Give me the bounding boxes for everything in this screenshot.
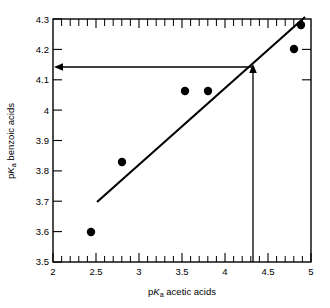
data-point [118, 158, 126, 166]
y-axis-title: pKa benzoic acids [5, 103, 18, 179]
y-tick-label: 3.9 [36, 135, 49, 146]
x-tick-label: 4.5 [261, 266, 274, 277]
plot-frame [53, 19, 311, 262]
y-tick-label: 3.8 [36, 165, 49, 176]
y-tick-label: 4.3 [36, 14, 49, 25]
x-axis-title: pKa acetic acids [148, 286, 216, 299]
regression-line [97, 17, 305, 202]
scatter-plot: 3.5 3.6 3.7 3.8 3.9 4 4.1 4.2 4.3 [0, 0, 330, 308]
x-tick-label: 4 [222, 266, 227, 277]
y-axis-tick-labels: 3.5 3.6 3.7 3.8 3.9 4 4.1 4.2 4.3 [36, 14, 49, 268]
x-tick-label: 2 [50, 266, 55, 277]
x-tick-label: 2.5 [89, 266, 102, 277]
chart-figure: 3.5 3.6 3.7 3.8 3.9 4 4.1 4.2 4.3 [0, 0, 330, 308]
x-tick-label: 3.5 [175, 266, 188, 277]
y-axis-ticks [53, 19, 62, 262]
y-tick-label: 4.2 [36, 44, 49, 55]
y-tick-label: 3.6 [36, 226, 49, 237]
data-points [87, 21, 305, 236]
data-point [87, 228, 95, 236]
data-point [181, 87, 189, 95]
x-axis-tick-labels: 2 2.5 3 3.5 4 4.5 5 [50, 266, 313, 277]
x-tick-label: 5 [308, 266, 313, 277]
data-point [290, 45, 298, 53]
y-tick-label: 4.1 [36, 74, 49, 85]
x-tick-label: 3 [136, 266, 141, 277]
y-tick-label: 4 [44, 105, 49, 116]
x-axis-ticks-top [62, 19, 303, 28]
y-axis-ticks-right [302, 49, 311, 79]
vertical-guide-arrow [249, 64, 257, 262]
horizontal-guide-arrow [54, 63, 253, 71]
y-tick-label: 3.7 [36, 196, 49, 207]
data-point [204, 87, 212, 95]
y-tick-label: 3.5 [36, 256, 49, 267]
x-axis-major-ticks [53, 253, 311, 262]
data-point [297, 21, 305, 29]
